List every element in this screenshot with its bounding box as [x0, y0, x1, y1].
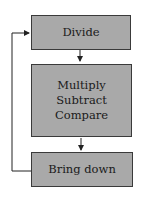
multiply-label: Multiply — [57, 78, 106, 93]
divide-box: Divide — [31, 15, 131, 50]
bring-down-box: Bring down — [31, 152, 133, 187]
multiply-subtract-compare-box: Multiply Subtract Compare — [31, 64, 132, 137]
bring-down-label: Bring down — [48, 162, 116, 177]
divide-label: Divide — [62, 25, 99, 40]
loop-back-arrow — [12, 33, 31, 171]
compare-label: Compare — [55, 108, 108, 123]
subtract-label: Subtract — [56, 93, 107, 108]
